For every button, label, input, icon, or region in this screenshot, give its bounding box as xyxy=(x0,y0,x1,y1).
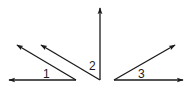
angle-3-label: 3 xyxy=(138,67,145,81)
angle-2: 2 xyxy=(41,8,100,80)
angles-diagram: 1 2 3 xyxy=(0,0,188,94)
angle-2-label: 2 xyxy=(89,59,96,73)
angle-1-label: 1 xyxy=(43,67,50,81)
angle-1: 1 xyxy=(9,45,76,81)
angle-3: 3 xyxy=(114,45,183,81)
